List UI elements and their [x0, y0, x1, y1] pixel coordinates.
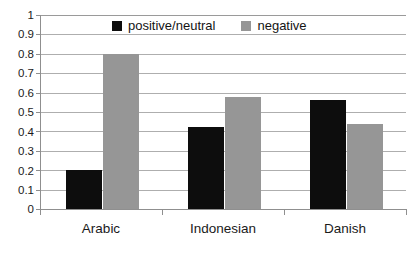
- y-axis-tick-label: 0.3: [2, 146, 34, 158]
- bar-chart: 1 0.9 0.8 0.7 0.6 0.5 0.4 0.3 0.2 0.1 0: [0, 0, 416, 255]
- bar-positive-neutral-indonesian: [188, 127, 224, 209]
- bar-negative-arabic: [103, 54, 139, 209]
- y-axis-tick-label: 0.8: [2, 49, 34, 61]
- y-axis-labels: 1 0.9 0.8 0.7 0.6 0.5 0.4 0.3 0.2 0.1 0: [0, 0, 34, 255]
- y-axis-tick-label: 0.5: [2, 107, 34, 119]
- bar-negative-indonesian: [225, 97, 261, 209]
- y-axis-tick-label: 0.9: [2, 29, 34, 41]
- x-axis-category-label-indonesian: Indonesian: [162, 222, 284, 237]
- y-axis-tick-label: 0.7: [2, 68, 34, 80]
- y-axis-tick-label: 0.2: [2, 166, 34, 178]
- chart-legend: positive/neutral negative: [108, 18, 311, 33]
- x-axis-category-label-danish: Danish: [284, 222, 406, 237]
- y-axis-tick-label: 0.1: [2, 185, 34, 197]
- legend-label-negative: negative: [257, 19, 306, 32]
- y-axis-tick-label: 0: [2, 204, 34, 216]
- y-axis-tick-label: 0.4: [2, 127, 34, 139]
- y-axis-tick-label: 1: [2, 10, 34, 22]
- legend-label-positive-neutral: positive/neutral: [128, 19, 215, 32]
- bar-negative-danish: [347, 124, 383, 209]
- gray-square-icon: [241, 21, 251, 31]
- bar-positive-neutral-danish: [310, 100, 346, 209]
- bars-layer: [40, 15, 406, 209]
- legend-item-positive-neutral: positive/neutral: [112, 19, 215, 32]
- y-axis-tick-label: 0.6: [2, 88, 34, 100]
- black-square-icon: [112, 21, 122, 31]
- legend-item-negative: negative: [241, 19, 306, 32]
- bar-positive-neutral-arabic: [66, 170, 102, 209]
- x-axis-category-label-arabic: Arabic: [40, 222, 162, 237]
